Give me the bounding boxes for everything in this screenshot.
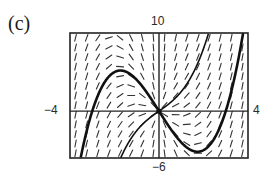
solution-curves <box>81 33 243 158</box>
origin-point <box>156 109 161 114</box>
solution-curve <box>81 33 243 158</box>
slope-field-plot <box>0 0 273 177</box>
